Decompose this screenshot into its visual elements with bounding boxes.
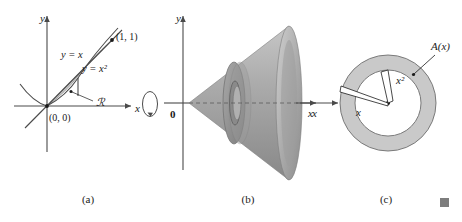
label-outer-radius-x: x <box>355 106 361 118</box>
figure-root: y x y = x y = x² (1, 1) (0, 0) ℛ <box>0 0 462 222</box>
region-leader-dot <box>70 90 73 93</box>
end-of-proof-marker <box>440 198 449 207</box>
line-y-equals-x <box>25 30 122 128</box>
caption-panel-c: (c) <box>366 193 406 205</box>
panel-b-y-axis-label: y <box>175 12 181 24</box>
label-point-0-0: (0, 0) <box>49 112 71 124</box>
label-area-function: A(x) <box>430 40 450 53</box>
point-1-1-dot <box>110 38 114 42</box>
panel-a-y-axis-label: y <box>39 12 45 24</box>
caption-panel-b: (b) <box>228 193 268 205</box>
point-0-0-dot <box>45 104 49 108</box>
panel-c-x-axis-arrowhead <box>332 100 338 106</box>
caption-panel-a: (a) <box>68 193 108 205</box>
region-leader-line <box>72 92 93 101</box>
panel-c-washer-cross-section: x A(x) x x² <box>290 0 462 185</box>
label-y-equals-x-squared: y = x² <box>81 63 108 74</box>
label-point-1-1: (1, 1) <box>116 31 138 43</box>
label-region-R: ℛ <box>96 96 106 108</box>
panel-c-x-axis-label: x <box>311 107 317 119</box>
panel-b-y-axis-arrowhead <box>180 16 186 22</box>
y-axis-arrowhead <box>44 16 50 22</box>
area-label-leader-dot <box>412 73 415 76</box>
panel-b-origin-label: 0 <box>170 108 176 120</box>
label-inner-radius-x-squared: x² <box>395 74 405 86</box>
label-y-equals-x: y = x <box>60 49 83 60</box>
